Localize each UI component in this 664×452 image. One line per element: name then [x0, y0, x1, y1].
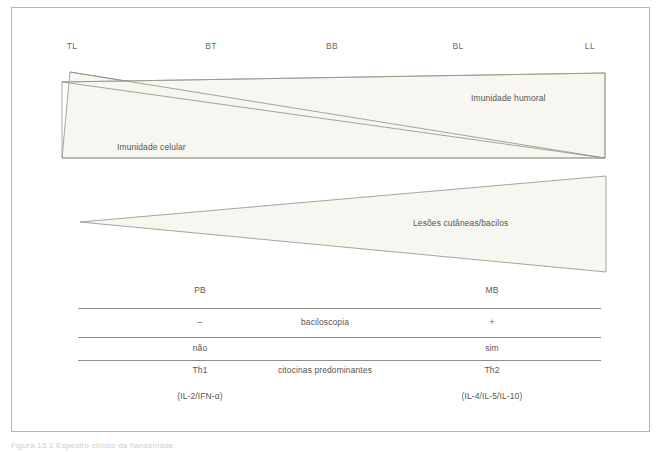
leprosy-spectrum-figure: TL BT BB BL LL Imunidade celular Imunida…	[0, 0, 664, 452]
spectrum-label-ll: LL	[585, 41, 595, 51]
pb-mb-comparison-table: PB MB – baciloscopia + não sim Th1 citoc…	[78, 281, 601, 407]
table-rule-3	[78, 360, 601, 361]
table-rule-2	[78, 337, 601, 338]
label-cellular-immunity: Imunidade celular	[117, 142, 186, 152]
table-row-cytokines-mb: Th2	[485, 365, 500, 375]
table-row-baciloscopia-label: baciloscopia	[301, 317, 349, 327]
table-header-mb: MB	[486, 285, 499, 295]
table-row-contagion-pb: não	[193, 343, 207, 353]
table-header-pb: PB	[194, 285, 206, 295]
spectrum-label-bl: BL	[452, 41, 463, 51]
figure-caption: Figura 15.1 Espectro clínico da hansenía…	[11, 441, 176, 450]
table-row-cytokines-pb: Th1	[193, 365, 208, 375]
table-row-contagion-mb: sim	[485, 343, 499, 353]
label-lesions-bacilli: Lesões cutâneas/bacilos	[413, 218, 508, 228]
table-row-cytokines-label: citocinas predominantes	[278, 365, 372, 375]
spectrum-label-bt: BT	[205, 41, 217, 51]
label-humoral-immunity: Imunidade humoral	[471, 93, 545, 103]
table-row-interleukins-pb: (IL-2/IFN-α)	[177, 391, 222, 401]
table-row-baciloscopia-pb: –	[198, 317, 203, 327]
table-row-baciloscopia-mb: +	[489, 317, 494, 327]
table-rule-1	[78, 308, 601, 309]
spectrum-label-tl: TL	[67, 41, 78, 51]
table-row-interleukins-mb: (IL-4/IL-5/IL-10)	[462, 391, 523, 401]
spectrum-label-bb: BB	[326, 41, 338, 51]
